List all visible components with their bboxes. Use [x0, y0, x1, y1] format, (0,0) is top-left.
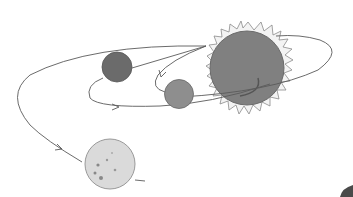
sun — [206, 21, 293, 114]
arrow-icon — [112, 104, 119, 110]
middle-planet — [165, 80, 194, 109]
corner-shape — [340, 185, 353, 197]
planet-exit-line — [135, 180, 145, 181]
orbit-arrows — [55, 70, 166, 150]
arrow-icon — [159, 70, 166, 77]
light-cratered-planet — [85, 139, 135, 189]
solar-system-illustration — [0, 0, 353, 197]
dark-planet — [102, 52, 132, 82]
